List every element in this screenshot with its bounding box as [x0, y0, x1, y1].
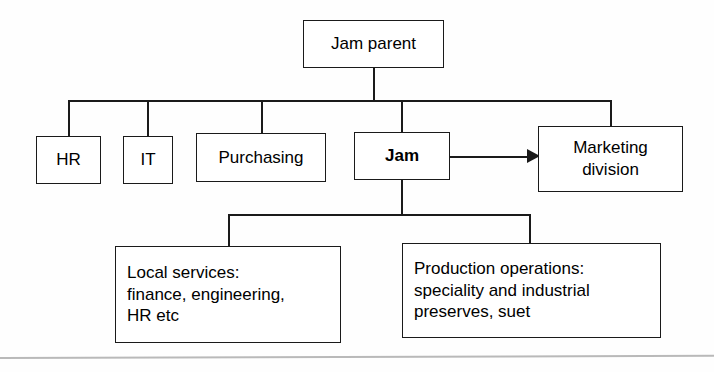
- connector-drop-local-services: [228, 214, 230, 246]
- node-hr-label: HR: [56, 149, 81, 171]
- node-hr[interactable]: HR: [36, 136, 101, 184]
- connector-lower-bus: [228, 214, 531, 216]
- connector-jam-parent-stem: [373, 68, 375, 101]
- connector-drop-it: [147, 100, 149, 136]
- node-marketing-division[interactable]: Marketing division: [538, 126, 683, 192]
- connector-drop-hr: [68, 100, 70, 136]
- connector-drop-purchasing: [261, 100, 263, 133]
- node-marketing-division-label: Marketing division: [573, 137, 648, 181]
- org-chart-diagram: Jam parent HR IT Purchasing Jam Marketin…: [0, 0, 714, 372]
- connector-jam-stem: [401, 180, 403, 215]
- node-it[interactable]: IT: [123, 136, 173, 184]
- node-local-services-label: Local services: finance, engineering, HR…: [127, 262, 285, 327]
- node-jam[interactable]: Jam: [354, 132, 450, 180]
- node-jam-parent[interactable]: Jam parent: [303, 20, 444, 68]
- node-it-label: IT: [140, 149, 155, 171]
- node-purchasing[interactable]: Purchasing: [196, 133, 326, 182]
- connector-drop-jam: [401, 100, 403, 132]
- node-production-operations-label: Production operations: speciality and in…: [414, 258, 590, 323]
- node-jam-parent-label: Jam parent: [331, 33, 416, 55]
- connector-drop-production-operations: [529, 214, 531, 243]
- node-purchasing-label: Purchasing: [218, 147, 303, 169]
- page-rule-divider: [0, 355, 714, 359]
- node-production-operations[interactable]: Production operations: speciality and in…: [402, 243, 661, 338]
- connector-drop-marketing-division: [610, 100, 612, 126]
- connector-jam-to-marketing-line: [450, 156, 530, 158]
- connector-upper-bus: [68, 100, 611, 102]
- node-local-services[interactable]: Local services: finance, engineering, HR…: [115, 246, 341, 343]
- node-jam-label: Jam: [385, 145, 419, 167]
